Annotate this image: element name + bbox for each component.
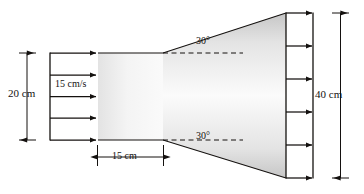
- diffuser-figure: — — — — — 20 cm 40 cm 15 cm/s 15 cm 30° …: [0, 0, 364, 194]
- inlet-height-label: 20 cm: [8, 88, 35, 99]
- half-angle-top-label: 30°: [196, 36, 210, 46]
- top-cut-off-note: — — — — —: [38, 0, 85, 3]
- throat-length-label: 15 cm: [112, 151, 137, 161]
- inlet-velocity-label: 15 cm/s: [55, 79, 86, 89]
- outlet-height-label: 40 cm: [315, 89, 342, 100]
- outlet-velocity-profile: [286, 12, 313, 178]
- inlet-velocity-profile: [50, 52, 96, 140]
- throat-fill: [98, 53, 163, 140]
- cone-fill: [163, 13, 286, 178]
- half-angle-bottom-label: 30°: [196, 131, 210, 141]
- diffuser-diagram-svg: [0, 0, 364, 194]
